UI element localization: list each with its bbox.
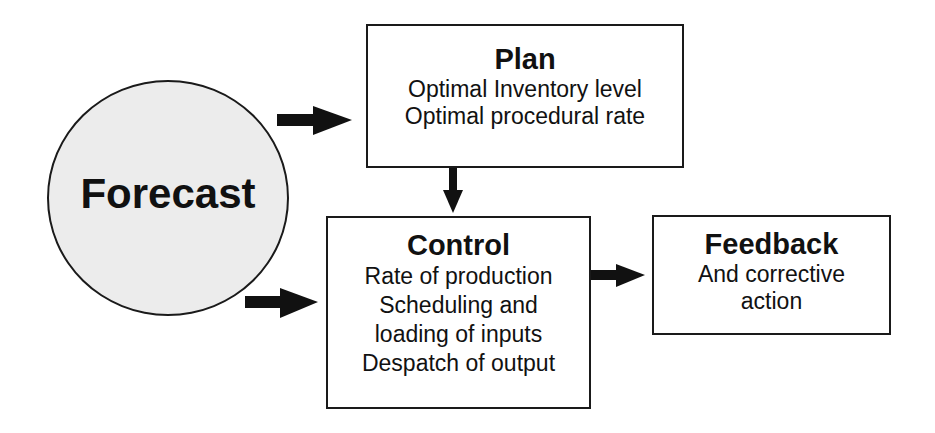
arrow-forecast-to-control-icon [245,288,318,318]
arrow-control-to-feedback-icon [591,264,645,287]
arrow-plan-to-control-icon [443,168,463,213]
arrow-forecast-to-plan-icon [277,106,352,135]
connector-layer [0,0,935,433]
